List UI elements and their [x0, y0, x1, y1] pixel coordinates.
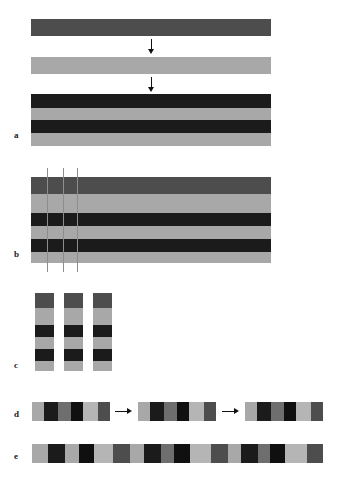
assembled-final-array-seg-2 [48, 444, 65, 463]
assembled-final-array-seg-14 [241, 444, 258, 463]
assembled-final-array-seg-12 [211, 444, 228, 463]
cut-strip-1-seg-1 [35, 293, 54, 308]
cut-strip-1-seg-2 [35, 308, 54, 325]
stacked-laminate-layer-1-dark [31, 94, 271, 108]
cut-strip-3-seg-1 [93, 293, 112, 308]
stacked-laminate [31, 94, 271, 146]
assembled-final-array-seg-18 [307, 444, 323, 463]
pressed-laminate-layer-5-black [31, 239, 271, 252]
pressed-laminate-layer-4-light-gray [31, 226, 271, 239]
rotated-strip-group-1 [32, 402, 110, 421]
panel-label-d: d [14, 410, 19, 419]
assembled-final-array [32, 444, 323, 463]
rotated-strip-group-2-seg-1 [138, 402, 150, 421]
rotated-strip-group-2-seg-2 [150, 402, 164, 421]
panel-label-e: e [14, 452, 18, 461]
rotated-strip-group-3-seg-2 [257, 402, 271, 421]
panel-label-b: b [14, 250, 19, 259]
rotated-strip-group-1-seg-4 [71, 402, 83, 421]
rotated-strip-group-3-seg-5 [296, 402, 311, 421]
rotated-strip-group-3 [245, 402, 323, 421]
rotated-strip-group-3-seg-3 [271, 402, 284, 421]
cut-line-3 [77, 168, 78, 272]
arrow-transfer-2-right-arrow-icon [222, 407, 239, 416]
precursor-sheet-light-light-sheet [31, 57, 271, 74]
cut-strip-1-seg-3 [35, 325, 54, 337]
rotated-strip-group-1-seg-2 [44, 402, 58, 421]
cut-strip-3-seg-6 [93, 361, 112, 371]
stacked-laminate-layer-3-dark [31, 120, 271, 133]
rotated-strip-group-2-seg-6 [204, 402, 216, 421]
panel-label-a: a [14, 131, 19, 140]
cut-strip-2-seg-3 [64, 325, 83, 337]
cut-strip-1-seg-5 [35, 349, 54, 361]
process-flow-figure: abcde [0, 0, 338, 481]
rotated-strip-group-2 [138, 402, 216, 421]
cut-strip-1 [35, 293, 54, 371]
cut-strip-1-seg-6 [35, 361, 54, 371]
arrow-head [234, 408, 239, 414]
assembled-final-array-seg-8 [144, 444, 161, 463]
panel-label-c: c [14, 361, 18, 370]
cut-strip-3-seg-2 [93, 308, 112, 325]
cut-line-2 [63, 168, 64, 272]
assembled-final-array-seg-17 [285, 444, 307, 463]
assembled-final-array-seg-4 [79, 444, 94, 463]
assembled-final-array-seg-9 [161, 444, 174, 463]
rotated-strip-group-1-seg-1 [32, 402, 44, 421]
cut-strip-2-seg-5 [64, 349, 83, 361]
pressed-laminate-layer-6-light-gray [31, 252, 271, 263]
arrow-head [127, 408, 132, 414]
cut-line-1 [47, 168, 48, 272]
cut-strip-3 [93, 293, 112, 371]
cut-strip-3-seg-3 [93, 325, 112, 337]
rotated-strip-group-1-seg-6 [98, 402, 110, 421]
rotated-strip-group-1-seg-5 [83, 402, 98, 421]
pressed-laminate-layer-3-black [31, 213, 271, 226]
rotated-strip-group-1-seg-3 [58, 402, 71, 421]
rotated-strip-group-3-seg-1 [245, 402, 257, 421]
pressed-laminate-layer-2-light-gray [31, 194, 271, 213]
precursor-sheet-light [31, 57, 271, 74]
cut-strip-2-seg-6 [64, 361, 83, 371]
cut-strip-3-seg-5 [93, 349, 112, 361]
assembled-final-array-seg-1 [32, 444, 48, 463]
arrow-head [148, 49, 154, 54]
assembled-final-array-seg-11 [190, 444, 211, 463]
arrow-step-1-down-arrow-icon [147, 39, 156, 54]
rotated-strip-group-2-seg-3 [164, 402, 177, 421]
pressed-laminate [31, 177, 271, 263]
cut-strip-2-seg-4 [64, 337, 83, 349]
precursor-sheet-dark [31, 19, 271, 36]
stacked-laminate-layer-4-light [31, 133, 271, 146]
arrow-transfer-1-right-arrow-icon [115, 407, 132, 416]
rotated-strip-group-2-seg-5 [189, 402, 204, 421]
cut-strip-2-seg-2 [64, 308, 83, 325]
arrow-step-2-down-arrow-icon [147, 77, 156, 92]
arrow-head [148, 87, 154, 92]
assembled-final-array-seg-5 [94, 444, 113, 463]
assembled-final-array-seg-7 [130, 444, 144, 463]
rotated-strip-group-3-seg-6 [311, 402, 323, 421]
assembled-final-array-seg-16 [270, 444, 285, 463]
cut-strip-3-seg-4 [93, 337, 112, 349]
cut-strip-2-seg-1 [64, 293, 83, 308]
assembled-final-array-seg-15 [258, 444, 270, 463]
pressed-laminate-layer-1-dark-gray [31, 177, 271, 194]
rotated-strip-group-3-seg-4 [284, 402, 296, 421]
precursor-sheet-dark-dark-sheet [31, 19, 271, 36]
assembled-final-array-seg-6 [113, 444, 130, 463]
assembled-final-array-seg-3 [65, 444, 79, 463]
cut-strip-1-seg-4 [35, 337, 54, 349]
assembled-final-array-seg-13 [228, 444, 241, 463]
assembled-final-array-seg-10 [174, 444, 190, 463]
stacked-laminate-layer-2-light [31, 108, 271, 120]
cut-strip-2 [64, 293, 83, 371]
rotated-strip-group-2-seg-4 [177, 402, 189, 421]
